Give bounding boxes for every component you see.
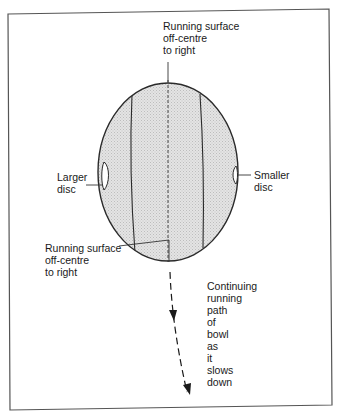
diagram-svg — [0, 0, 338, 416]
label-smaller-disc: Smaller disc — [254, 169, 290, 193]
diagram-canvas: Running surface off-centre to right Larg… — [0, 0, 338, 416]
label-running-path: Continuing running path of bowl as it sl… — [207, 280, 257, 388]
label-larger-disc: Larger disc — [57, 171, 87, 195]
label-bottom-running-surface: Running surface off-centre to right — [45, 242, 121, 278]
label-top-running-surface: Running surface off-centre to right — [163, 20, 239, 56]
smaller-disc — [233, 166, 238, 184]
